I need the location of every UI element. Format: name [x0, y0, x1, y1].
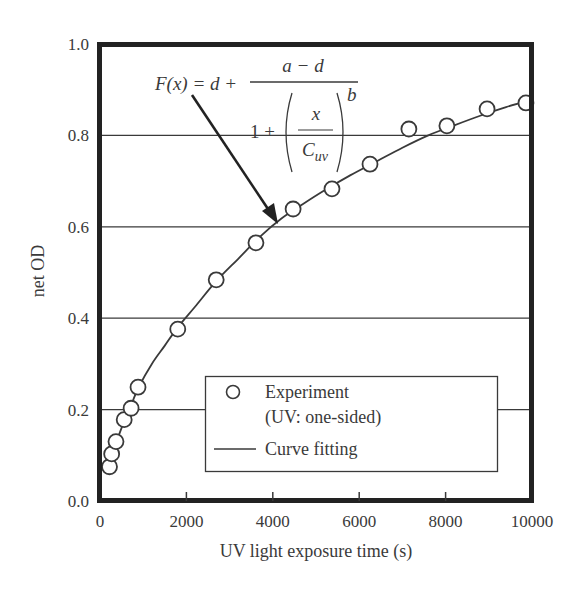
y-axis-title: net OD [28, 245, 48, 298]
gridlines [100, 135, 532, 409]
data-point [170, 322, 185, 337]
y-tick-label: 0.4 [68, 309, 90, 328]
data-point [124, 401, 139, 416]
formula-denominator-prefix: 1 + [250, 121, 275, 142]
x-axis-ticks: 0200040006000800010000 [96, 492, 554, 531]
formula-inner-denominator: Cuv [302, 139, 329, 164]
formula-right-paren [337, 93, 343, 172]
x-tick-label: 4000 [256, 512, 290, 531]
arrow-shaft [192, 95, 270, 212]
data-point [324, 181, 339, 196]
x-axis-title: UV light exposure time (s) [220, 541, 413, 562]
formula-c-base: C [302, 139, 315, 160]
formula-annotation: F(x) = d + a − d 1 + x Cuv b [154, 55, 358, 172]
legend-curve-label: Curve fitting [265, 439, 358, 459]
legend-experiment-label: Experiment [265, 382, 349, 402]
legend-circle-marker-icon [227, 386, 240, 399]
formula-uv-subscript: uv [315, 149, 329, 164]
x-tick-label: 10000 [511, 512, 554, 531]
y-tick-label: 0.6 [68, 218, 89, 237]
y-axis-ticks: 0.00.20.40.60.81.0 [68, 35, 90, 511]
x-tick-label: 6000 [342, 512, 376, 531]
y-tick-label: 0.2 [68, 401, 89, 420]
data-point [363, 157, 378, 172]
y-tick-label: 0.0 [68, 492, 89, 511]
formula-left-paren [286, 93, 292, 172]
x-tick-label: 0 [96, 512, 105, 531]
chart: 0200040006000800010000 0.00.20.40.60.81.… [0, 0, 584, 589]
x-tick-label: 8000 [429, 512, 463, 531]
data-point [209, 272, 224, 287]
y-tick-label: 0.8 [68, 126, 89, 145]
y-tick-label: 1.0 [68, 35, 89, 54]
data-point [439, 118, 454, 133]
annotation-arrow [192, 95, 278, 224]
legend-experiment-sublabel: (UV: one-sided) [265, 407, 381, 428]
formula-numerator: a − d [282, 55, 324, 76]
legend: Experiment (UV: one-sided) Curve fitting [206, 377, 498, 472]
x-tick-label: 2000 [169, 512, 203, 531]
data-point [480, 101, 495, 116]
data-point [401, 122, 416, 137]
formula-lhs: F(x) = d + [154, 73, 237, 95]
data-point [286, 201, 301, 216]
data-point [131, 380, 146, 395]
formula-inner-numerator: x [311, 103, 321, 124]
data-point [108, 434, 123, 449]
data-point [248, 235, 263, 250]
chart-svg: 0200040006000800010000 0.00.20.40.60.81.… [0, 0, 584, 589]
formula-exponent: b [347, 84, 357, 105]
arrow-head-icon [262, 203, 278, 224]
